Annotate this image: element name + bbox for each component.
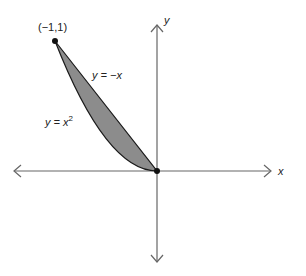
shaded-region — [55, 41, 157, 171]
graph: (−1,1) y x y = −x y = x2 — [0, 0, 306, 276]
line-label: y = −x — [91, 69, 122, 81]
point-neg1-1 — [52, 38, 58, 44]
parabola-label: y = x2 — [44, 114, 74, 128]
x-axis-label: x — [277, 165, 284, 177]
point-label: (−1,1) — [38, 21, 67, 33]
point-origin — [154, 168, 160, 174]
y-axis-label: y — [163, 14, 171, 26]
